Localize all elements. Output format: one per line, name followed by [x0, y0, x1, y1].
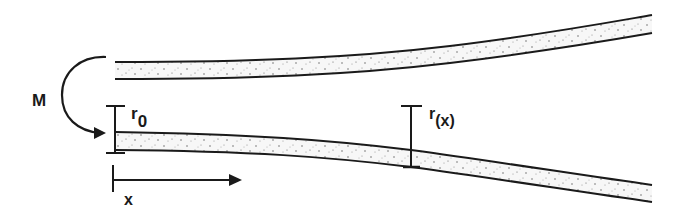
upper-tube-wall	[115, 15, 652, 79]
moment-arrowhead-icon	[94, 127, 106, 139]
x-axis-arrow	[113, 165, 242, 192]
r0-label: r0	[131, 104, 147, 131]
moment-arrow	[62, 57, 106, 139]
moment-label: M	[32, 91, 46, 110]
x-axis-arrowhead-icon	[229, 174, 242, 186]
flared-tube-diagram: M r0 r(x) x	[0, 0, 687, 217]
rx-label: r(x)	[429, 105, 455, 129]
lower-tube-wall	[115, 132, 652, 202]
x-axis-label: x	[124, 191, 133, 208]
